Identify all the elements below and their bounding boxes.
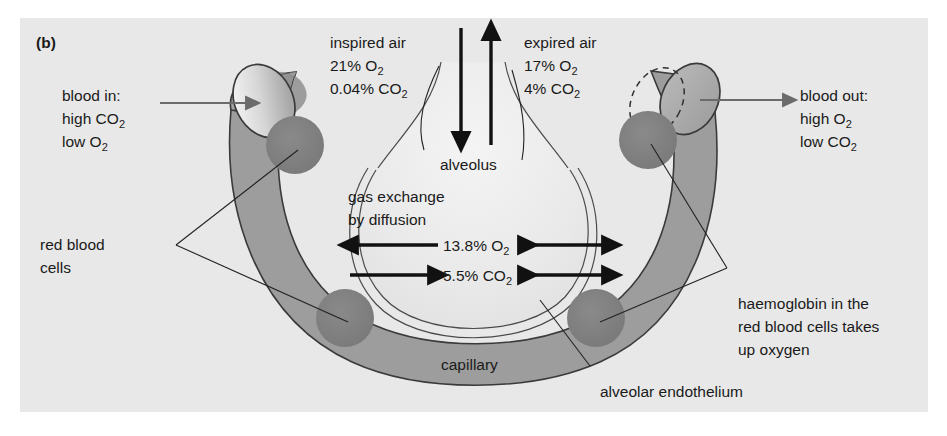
red-blood-cell (567, 289, 625, 347)
expired-air-line1: expired air (524, 34, 596, 51)
alveolar-endothelium-label: alveolar endothelium (600, 383, 743, 400)
red-blood-cell (266, 116, 324, 174)
red-blood-cell (619, 111, 677, 169)
blood-out-line1: blood out: (800, 87, 868, 104)
capillary-label: capillary (441, 356, 498, 373)
haemoglobin-label: haemoglobin in the red blood cells takes… (738, 295, 880, 358)
expired-air-label: expired air 17% O2 4% CO2 (524, 34, 596, 100)
alveolus-label: alveolus (440, 156, 497, 173)
haemoglobin-line3: up oxygen (738, 341, 810, 358)
panel-label: (b) (36, 34, 56, 51)
blood-in-line2: high CO2 (62, 110, 125, 130)
inspired-air-line2: 21% O2 (330, 57, 384, 77)
blood-out-line3: low CO2 (800, 133, 857, 153)
blood-out-label: blood out: high O2 low CO2 (800, 87, 868, 153)
inspired-air-line3: 0.04% CO2 (330, 80, 408, 100)
red-blood-cells-label: red blood cells (40, 236, 105, 276)
expired-air-line2: 17% O2 (524, 57, 578, 77)
blood-in-line3: low O2 (62, 133, 108, 153)
inspired-air-line1: inspired air (330, 34, 406, 51)
haemoglobin-line1: haemoglobin in the (738, 295, 869, 312)
gas-exchange-line2: by diffusion (348, 211, 426, 228)
haemoglobin-line2: red blood cells takes (738, 318, 880, 335)
red-blood-cells-line1: red blood (40, 236, 105, 253)
gas-exchange-line1: gas exchange (348, 188, 445, 205)
blood-in-label: blood in: high CO2 low O2 (62, 87, 125, 153)
alveolus-capillary-diagram: (b) blood in: high CO2 low O2 inspired a… (0, 0, 947, 436)
figure-root: (b) blood in: high CO2 low O2 inspired a… (0, 0, 947, 436)
blood-in-line1: blood in: (62, 87, 121, 104)
inspired-air-label: inspired air 21% O2 0.04% CO2 (330, 34, 408, 100)
red-blood-cell (316, 289, 374, 347)
expired-air-line3: 4% CO2 (524, 80, 580, 100)
blood-out-line2: high O2 (800, 110, 852, 130)
red-blood-cells-line2: cells (40, 259, 71, 276)
